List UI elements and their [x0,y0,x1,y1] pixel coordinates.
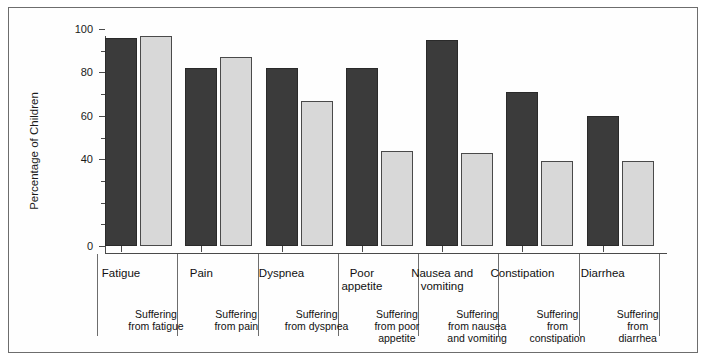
category-tick [201,246,202,252]
category-tick [522,246,523,252]
bar-group [426,29,493,246]
y-tick-label: 80 [47,66,93,78]
sub-label-line: and vomiting [447,332,507,344]
y-axis-title: Percentage of Children [28,66,40,236]
bar-group [266,29,333,246]
sub-label-line: Suffering [215,308,257,320]
y-tick-label: 40 [47,153,93,165]
y-tick-label: 60 [47,110,93,122]
bar-light [461,153,493,246]
x-axis-line [105,253,667,254]
category-label-line: Dyspnea [259,267,304,279]
sub-label-line: from poor [374,320,419,332]
sub-label-line: diarrhea [618,332,657,344]
bar-dark [185,68,217,246]
sub-label-line: from fatigue [128,320,183,332]
bar-dark [426,40,458,246]
sub-label-line: appetite [378,332,415,344]
bar-dark [506,92,538,246]
category-label: Dyspnea [237,267,327,280]
sub-label-line: Suffering [296,308,338,320]
bar-light [622,161,654,246]
sub-label: Sufferingfromdiarrhea [593,308,683,344]
category-label-line: appetite [341,280,382,292]
sub-label: Sufferingfromconstipation [512,308,602,344]
category-tick [362,246,363,252]
bar-dark [105,38,137,246]
sub-label-line: from [627,320,648,332]
bar-light [301,101,333,246]
category-tick [121,246,122,252]
bar-light [140,36,172,246]
sub-label-line: from nausea [448,320,506,332]
category-label: Fatigue [76,267,166,280]
sub-label-line: constipation [529,332,585,344]
bar-group [185,29,252,246]
category-label: Constipation [477,267,567,280]
bar-dark [346,68,378,246]
category-label-line: Diarrhea [581,267,625,279]
sub-label-line: Suffering [376,308,418,320]
category-label-line: Poor [350,267,374,279]
plot-area [97,29,659,246]
sub-label-line: Suffering [537,308,579,320]
bar-group [346,29,413,246]
bar-group [105,29,172,246]
y-tick-major [99,246,105,247]
sub-label: Sufferingfrom dyspnea [272,308,362,332]
category-label-line: vomiting [421,280,464,292]
category-label: Nausea andvomiting [397,267,487,293]
chart-frame: Percentage of Children 0406080100 Fatigu… [8,7,698,353]
category-tick [282,246,283,252]
category-label-line: Nausea and [411,267,473,279]
sub-label: Sufferingfrom fatigue [111,308,201,332]
bar-dark [587,116,619,246]
sub-label-line: from [547,320,568,332]
bar-light [541,161,573,246]
sub-label-line: Suffering [617,308,659,320]
figure: Percentage of Children 0406080100 Fatigu… [0,0,706,361]
sub-label: Sufferingfrom poorappetite [352,308,442,344]
category-label-line: Constipation [490,267,554,279]
sub-label: Sufferingfrom nauseaand vomiting [432,308,522,344]
bar-dark [266,68,298,246]
y-tick-label: 0 [47,240,93,252]
y-tick-label: 100 [47,23,93,35]
sub-label-line: from dyspnea [285,320,349,332]
category-label-line: Fatigue [102,267,140,279]
sub-label-line: Suffering [456,308,498,320]
category-label: Poorappetite [317,267,407,293]
category-tick [442,246,443,252]
sub-label-line: from pain [214,320,258,332]
sub-label-line: Suffering [135,308,177,320]
category-label: Pain [156,267,246,280]
bar-light [381,151,413,246]
category-label: Diarrhea [558,267,648,280]
category-tick [603,246,604,252]
category-label-line: Pain [190,267,213,279]
bar-light [220,57,252,246]
bar-group [587,29,654,246]
sub-label: Sufferingfrom pain [191,308,281,332]
bar-group [506,29,573,246]
